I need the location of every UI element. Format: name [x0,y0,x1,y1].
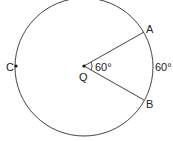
label-c: C [6,61,14,73]
circle-diagram: A B C Q 60° 60° [0,0,173,141]
label-a: A [146,23,154,35]
arc-measure-label: 60° [155,61,172,73]
point-c [14,64,17,67]
angle-arc-marker [91,62,92,70]
radius-qa [84,32,144,66]
label-q: Q [79,71,88,83]
circle [15,0,153,136]
label-b: B [146,98,153,110]
central-angle-label: 60° [95,61,112,73]
center-point-q [82,64,85,67]
radius-qb [84,66,144,100]
